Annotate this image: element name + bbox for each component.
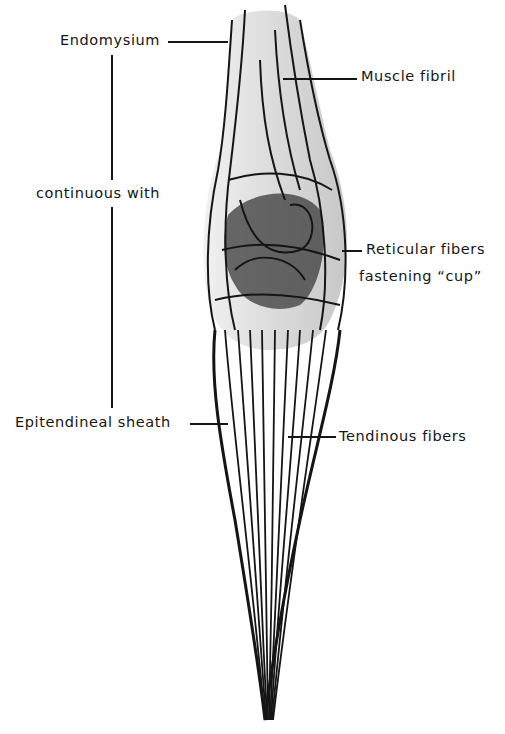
label-epitendineal-sheath: Epitendineal sheath <box>15 414 171 430</box>
muscle-tendon-illustration <box>0 0 505 734</box>
label-continuous-with: continuous with <box>36 185 160 201</box>
tendinous-fibers <box>225 330 326 720</box>
label-fastening-cup: fastening “cup” <box>359 268 482 284</box>
label-reticular-fibers: Reticular fibers <box>366 241 485 257</box>
label-tendinous-fibers: Tendinous fibers <box>339 428 467 444</box>
label-muscle-fibril: Muscle fibril <box>361 68 456 84</box>
label-endomysium: Endomysium <box>60 32 160 48</box>
